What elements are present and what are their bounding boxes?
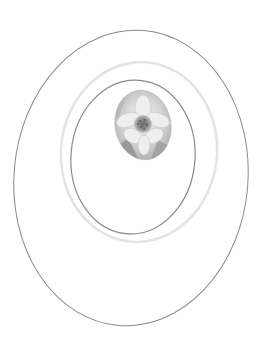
artwork-canvas — [0, 0, 263, 351]
outer-ring — [2, 20, 261, 335]
flower-center — [134, 115, 152, 133]
flower-image — [110, 85, 176, 165]
